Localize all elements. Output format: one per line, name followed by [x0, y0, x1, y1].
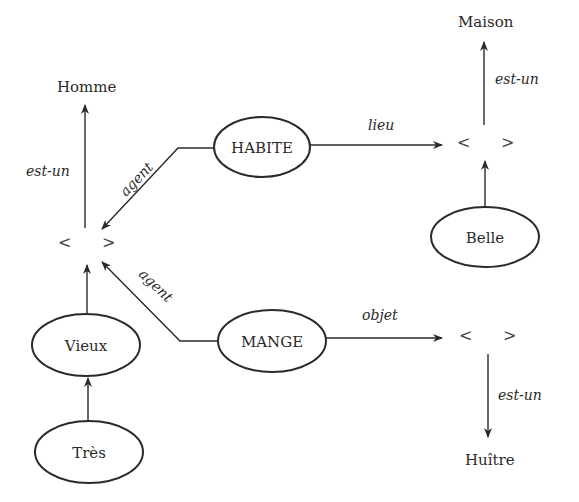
- node-mange: MANGE: [218, 310, 326, 372]
- svg-text:>: >: [102, 233, 115, 252]
- node-maison: Maison: [458, 13, 514, 31]
- edge-label-est-un-huitre: est-un: [498, 387, 542, 403]
- semantic-network-diagram: Homme est-un < > agent HABITE lieu < > M…: [0, 0, 579, 502]
- svg-text:MANGE: MANGE: [241, 333, 303, 351]
- slot-top-right: < >: [457, 133, 514, 152]
- svg-text:>: >: [501, 133, 514, 152]
- node-vieux: Vieux: [32, 314, 140, 376]
- slot-left: < >: [58, 233, 115, 252]
- svg-text:<: <: [457, 133, 470, 152]
- edge-label-lieu: lieu: [368, 117, 394, 133]
- svg-text:<: <: [58, 233, 71, 252]
- slot-bottom-right: < >: [459, 326, 516, 345]
- node-belle: Belle: [431, 207, 539, 267]
- node-habite: HABITE: [214, 117, 310, 177]
- svg-text:Belle: Belle: [466, 229, 504, 247]
- node-tres: Très: [35, 421, 143, 483]
- svg-text:HABITE: HABITE: [231, 139, 293, 157]
- edge-label-agent-mange: agent: [136, 266, 176, 306]
- node-homme: Homme: [57, 78, 117, 96]
- svg-text:Vieux: Vieux: [64, 337, 108, 355]
- edge-label-est-un-homme: est-un: [26, 163, 70, 179]
- svg-text:Très: Très: [72, 444, 106, 462]
- svg-text:>: >: [503, 326, 516, 345]
- edge-label-est-un-maison: est-un: [495, 71, 539, 87]
- node-huitre: Huître: [465, 451, 515, 469]
- svg-text:<: <: [459, 326, 472, 345]
- edge-label-objet: objet: [362, 307, 398, 323]
